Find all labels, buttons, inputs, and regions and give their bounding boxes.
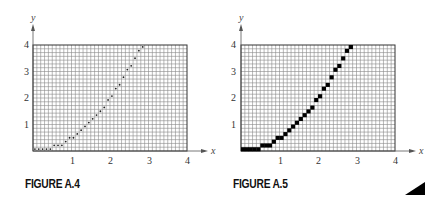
y-axis-arrow-icon xyxy=(31,24,35,31)
y-tick-4: 4 xyxy=(231,39,236,50)
x-tick-4: 4 xyxy=(393,155,398,166)
grid-lines xyxy=(33,45,187,151)
x-tick-2: 2 xyxy=(316,155,321,166)
x-axis-label: x xyxy=(419,145,423,156)
x-tick-3: 3 xyxy=(355,155,360,166)
x-tick-1: 1 xyxy=(70,155,75,166)
x-axis-label: x xyxy=(211,145,215,156)
y-tick-2: 2 xyxy=(24,92,29,103)
y-tick-2: 2 xyxy=(231,92,236,103)
figure-caption: FIGURE A.5 xyxy=(233,177,288,191)
figure-a4: y x 4 3 2 1 1 2 3 4 FIGURE A.4 xyxy=(0,0,222,214)
page-corner-triangle-icon xyxy=(405,182,425,195)
figure-caption: FIGURE A.4 xyxy=(25,177,80,191)
x-tick-3: 3 xyxy=(147,155,152,166)
x-axis-arrow-icon xyxy=(409,149,416,153)
x-axis-arrow-icon xyxy=(201,149,208,153)
y-tick-3: 3 xyxy=(24,66,29,77)
y-tick-4: 4 xyxy=(24,39,29,50)
y-axis-label: y xyxy=(239,12,243,23)
y-tick-1: 1 xyxy=(231,119,236,130)
x-tick-4: 4 xyxy=(185,155,190,166)
x-tick-2: 2 xyxy=(108,155,113,166)
y-axis-arrow-icon xyxy=(239,24,243,31)
y-axis-label: y xyxy=(31,12,35,23)
y-tick-1: 1 xyxy=(24,119,29,130)
y-tick-3: 3 xyxy=(231,66,236,77)
x-tick-1: 1 xyxy=(278,155,283,166)
